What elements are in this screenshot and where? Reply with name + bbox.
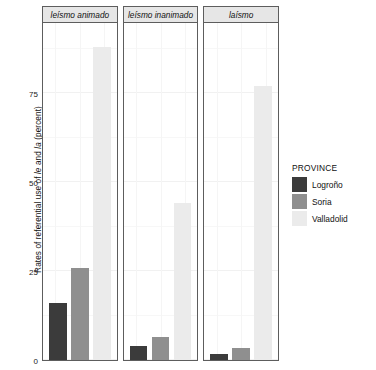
bar-valladolid[interactable] [174,203,192,360]
y-tick-label-50: 50 [29,179,38,188]
bar-valladolid[interactable] [93,47,111,360]
bar-soria[interactable] [232,348,250,360]
legend-title: PROVINCE [292,163,376,173]
bar-group [124,23,198,360]
facet-panel-3: laísmo [203,6,279,361]
bar-logroño[interactable] [49,303,67,360]
legend: PROVINCE LogroñoSoriaValladolid [292,163,376,228]
legend-item-valladolid[interactable]: Valladolid [292,211,376,226]
facet-strip-label: leísmo animado [42,6,118,23]
legend-item-label: Valladolid [312,214,348,224]
legend-swatch-icon [292,177,307,192]
plot-area: 0255075 leísmo animadoleísmo inanimadola… [22,6,279,361]
bar-valladolid[interactable] [254,86,272,360]
y-axis: 0255075 [22,6,40,361]
legend-swatch-icon [292,194,307,209]
facet-panel-body [42,23,118,361]
facet-panel-1: leísmo animado [42,6,118,361]
legend-item-soria[interactable]: Soria [292,194,376,209]
facet-panel-body [123,23,199,361]
bar-logroño[interactable] [210,354,228,360]
bar-soria[interactable] [71,268,89,361]
bar-soria[interactable] [152,337,170,360]
bar-group [204,23,278,360]
bar-logroño[interactable] [130,346,148,360]
facet-strip-label: leísmo inanimado [123,6,199,23]
y-tick-label-25: 25 [29,268,38,277]
legend-item-label: Soria [312,197,332,207]
legend-swatch-icon [292,211,307,226]
legend-items: LogroñoSoriaValladolid [292,177,376,226]
y-tick-label-0: 0 [34,357,38,366]
facet-panels: leísmo animadoleísmo inanimadolaísmo [42,6,279,361]
facet-panel-2: leísmo inanimado [123,6,199,361]
chart-root: Rates of referential use of le and la (p… [0,0,376,370]
facet-strip-label: laísmo [203,6,279,23]
legend-item-logroño[interactable]: Logroño [292,177,376,192]
facet-panel-body [203,23,279,361]
bar-group [43,23,117,360]
y-tick-label-75: 75 [29,90,38,99]
legend-item-label: Logroño [312,180,343,190]
